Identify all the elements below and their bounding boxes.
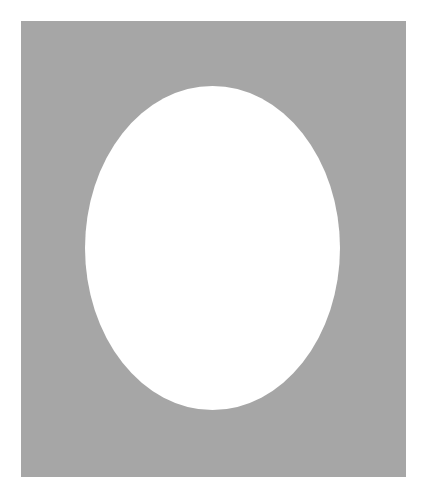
white-oval-window: [85, 86, 340, 410]
gray-rectangle-mat: [21, 21, 406, 477]
